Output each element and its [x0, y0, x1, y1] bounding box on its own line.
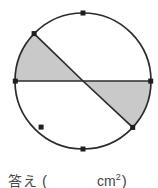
- answer-blank-field[interactable]: [47, 174, 97, 188]
- circle-diagram: [0, 0, 158, 158]
- point-marker-top: [81, 11, 86, 16]
- answer-row: 答え ( cm2 ): [0, 157, 158, 188]
- point-marker-left: [13, 79, 18, 84]
- point-marker-upper-left: [32, 31, 37, 36]
- answer-paren-close-icon: ): [122, 173, 127, 188]
- lower-right-shaded-sector: [83, 81, 151, 127]
- upper-left-shaded-sector: [15, 34, 83, 81]
- point-marker-lower-right: [130, 125, 135, 130]
- point-marker-lower-left: [39, 125, 44, 130]
- answer-unit-exponent: 2: [116, 172, 121, 182]
- answer-unit: cm2: [97, 173, 121, 188]
- circle-sector-figure: 答え ( cm2 ): [0, 0, 158, 188]
- answer-unit-base: cm: [97, 173, 116, 188]
- point-marker-bottom: [81, 147, 86, 152]
- answer-label: 答え: [8, 174, 37, 188]
- point-marker-right: [148, 79, 153, 84]
